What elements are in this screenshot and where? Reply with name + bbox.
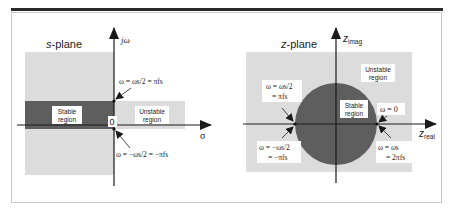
s-plane-upper-point [112,99,115,102]
z-unstable-label-line2: region [369,74,387,82]
sigma-axis-label: σ [200,130,206,141]
s-upper-annotation-arrow [116,88,131,99]
z-right-point [375,122,378,125]
z-right-lower-annotation-line1: ω = ωs [378,143,399,152]
origin-label: 0 [110,117,115,127]
z-unstable-label-line1: Unstable [365,66,391,73]
s-stable-label-line2: region [58,116,76,124]
s-lower-annotation: ω = −ωs/2 = −πfs [116,150,168,159]
z-lower-left-annotation-line1: ω = −ωs/2 [259,143,290,152]
diagram-canvas: s-plane jω σ 0 Stable region Unstable re… [0,0,452,222]
z-upper-left-annotation-line2: = πfs [272,92,287,101]
z-stable-label-line1: Stable [345,102,364,109]
s-unstable-label-line1: Unstable [139,108,165,115]
s-lower-annotation-arrow [116,131,130,148]
s-unstable-label-line2: region [143,116,161,124]
s-stable-label-line1: Stable [58,108,77,115]
z-upper-left-annotation-line1: ω = ωs/2 [266,82,293,91]
z-lower-left-annotation-line2: = −πfs [268,153,288,162]
s-plane-lower-point [112,127,115,130]
z-plane-diagram: z-plane zimag zreal Unstable region Stab… [243,28,436,183]
s-plane-title: s-plane [46,38,82,50]
z-plane-title: z-plane [280,38,317,50]
s-plane-diagram: s-plane jω σ 0 Stable region Unstable re… [17,28,211,186]
z-real-axis-label: zreal [418,128,435,140]
z-stable-label-line2: region [345,110,363,118]
jw-axis-label: jω [120,35,130,45]
z-right-upper-annotation: ω = 0 [380,105,398,114]
z-right-lower-annotation-line2: = 2πfs [386,153,405,162]
z-imag-axis-label: zimag [342,33,362,46]
z-left-point [293,122,296,125]
s-upper-annotation: ω = ωs/2 = πfs [119,77,163,86]
